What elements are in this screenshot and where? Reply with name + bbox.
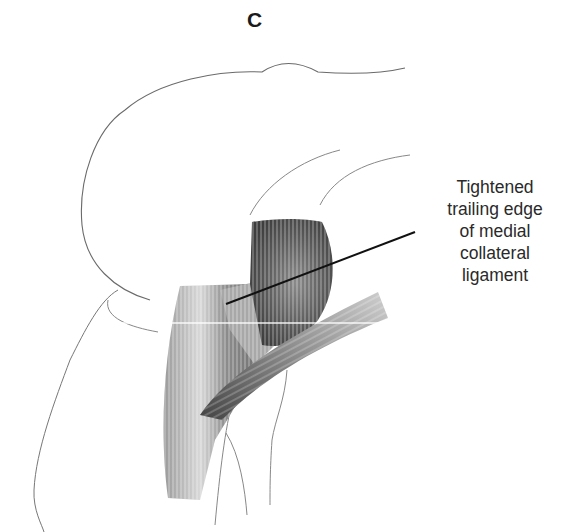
femur-condyle-outline <box>81 64 405 300</box>
callout-line: ligament <box>420 264 570 286</box>
femur-shaft-outline <box>250 150 410 215</box>
callout-line: of medial <box>420 220 570 242</box>
callout-line: collateral <box>420 242 570 264</box>
callout-line: trailing edge <box>420 198 570 220</box>
tibia-outline <box>34 290 118 532</box>
panel-label: C <box>247 8 262 32</box>
callout-label: Tightened trailing edge of medial collat… <box>420 176 570 286</box>
callout-line: Tightened <box>420 176 570 198</box>
meniscus-outline <box>108 300 158 332</box>
